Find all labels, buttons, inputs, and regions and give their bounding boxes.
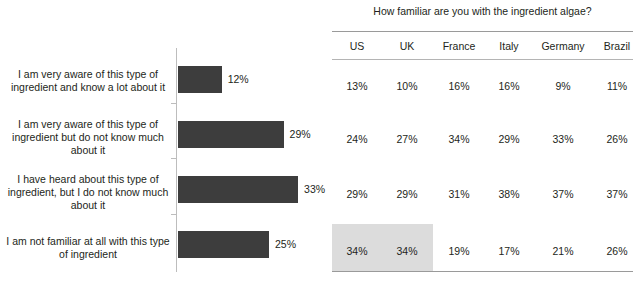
figure-root: I am very aware of this type of ingredie… (0, 0, 638, 291)
table-cell: 31% (432, 188, 486, 200)
table-cell: 29% (486, 133, 532, 145)
table-cell: 10% (382, 80, 432, 92)
table-header-italy: Italy (486, 40, 532, 52)
table-cell: 21% (532, 245, 594, 257)
table-header-germany: Germany (532, 40, 594, 52)
bar-value-0: 12% (228, 66, 249, 93)
table-header-uk: UK (382, 40, 432, 52)
bar-3 (178, 231, 269, 258)
bar-value-3: 25% (275, 231, 296, 258)
table-cell: 26% (594, 133, 638, 145)
chart-value-axis (176, 48, 177, 272)
table-cell: 33% (532, 133, 594, 145)
table-cell: 37% (532, 188, 594, 200)
bar-category-label: I am not familiar at all with this type … (4, 235, 172, 261)
table-cell: 19% (432, 245, 486, 257)
table-title: How familiar are you with the ingredient… (332, 5, 633, 17)
table-cell: 17% (486, 245, 532, 257)
table-rule-header (332, 59, 633, 60)
table-header-france: France (432, 40, 486, 52)
table-cell: 29% (382, 188, 432, 200)
table-cell: 13% (332, 80, 382, 92)
bar-value-1: 29% (290, 121, 311, 148)
table-cell: 26% (594, 245, 638, 257)
table-cell-highlighted: 34% (332, 245, 382, 257)
table-cell: 34% (432, 133, 486, 145)
bar-category-label: I have heard about this type of ingredie… (4, 173, 172, 212)
bar-2 (178, 176, 298, 203)
bar-0 (178, 66, 222, 93)
bar-chart: I am very aware of this type of ingredie… (0, 0, 332, 291)
axis-tick (171, 103, 176, 104)
table-cell: 27% (382, 133, 432, 145)
table-cell: 37% (594, 188, 638, 200)
bar-category-label: I am very aware of this type of ingredie… (4, 68, 172, 94)
table-cell: 24% (332, 133, 382, 145)
axis-tick (171, 214, 176, 215)
table-rule-bottom (332, 271, 633, 272)
table-cell: 29% (332, 188, 382, 200)
table-cell: 9% (532, 80, 594, 92)
table-cell-highlighted: 34% (382, 245, 432, 257)
table-header-brazil: Brazil (594, 40, 638, 52)
table-rule-top (332, 31, 633, 32)
table-cell: 16% (486, 80, 532, 92)
table-cell: 11% (594, 80, 638, 92)
bar-1 (178, 121, 284, 148)
axis-tick (171, 158, 176, 159)
bar-category-label: I am very aware of this type of ingredie… (4, 118, 172, 157)
familiarity-table: How familiar are you with the ingredient… (332, 0, 638, 291)
bar-value-2: 33% (304, 176, 325, 203)
table-cell: 38% (486, 188, 532, 200)
table-header-us: US (332, 40, 382, 52)
table-cell: 16% (432, 80, 486, 92)
